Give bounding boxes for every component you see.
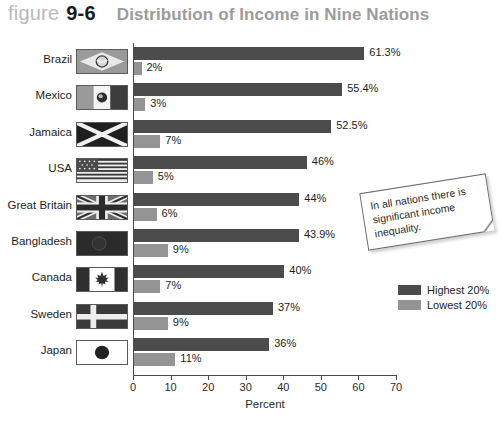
bar-value-mexico-highest20: 55.4% (347, 82, 378, 94)
x-axis-tick-0 (133, 376, 134, 380)
bar-bangladesh-lowest20 (134, 244, 168, 257)
bar-usa-highest20 (134, 156, 307, 169)
legend-item: Lowest 20% (398, 298, 498, 311)
x-axis-tick-60 (358, 376, 359, 380)
flag-usa-icon (76, 158, 128, 183)
x-axis-tick-50 (321, 376, 322, 380)
chart-row: Mexico55.4%3% (0, 83, 501, 119)
bar-bangladesh-highest20 (134, 229, 299, 242)
figure-header: figure 9-6 Distribution of Income in Nin… (8, 2, 498, 30)
bar-value-bangladesh-lowest20: 9% (173, 243, 189, 255)
chart-row: Jamaica52.5%7% (0, 120, 501, 156)
x-axis-tick-label-60: 60 (352, 381, 364, 393)
x-axis-tick-label-0: 0 (130, 381, 136, 393)
bar-great-britain-lowest20 (134, 208, 157, 221)
bar-mexico-highest20 (134, 83, 342, 96)
flag-japan-icon (76, 340, 128, 365)
bar-mexico-lowest20 (134, 98, 145, 111)
bar-canada-highest20 (134, 265, 284, 278)
bar-great-britain-highest20 (134, 193, 299, 206)
x-axis-tick-label-40: 40 (277, 381, 289, 393)
country-label-mexico: Mexico (0, 89, 72, 101)
flag-bangladesh-icon (76, 231, 128, 256)
bar-value-mexico-lowest20: 3% (150, 97, 166, 109)
bar-value-japan-lowest20: 11% (180, 352, 201, 364)
flag-mexico-icon (76, 85, 128, 110)
country-label-usa: USA (0, 162, 72, 174)
country-label-jamaica: Jamaica (0, 126, 72, 138)
flag-great-britain-icon (76, 195, 128, 220)
legend-label: Lowest 20% (427, 299, 487, 311)
x-axis-tick-30 (246, 376, 247, 380)
country-label-bangladesh: Bangladesh (0, 235, 72, 247)
country-label-canada: Canada (0, 271, 72, 283)
bar-value-great-britain-highest20: 44% (304, 192, 326, 204)
x-axis-tick-70 (396, 376, 397, 380)
bar-value-canada-highest20: 40% (289, 264, 311, 276)
bar-brazil-highest20 (134, 47, 364, 60)
chart-legend: Highest 20%Lowest 20% (398, 283, 498, 313)
chart-title: Distribution of Income in Nine Nations (117, 5, 430, 25)
flag-jamaica-icon (76, 122, 128, 147)
chart-row: Brazil61.3%2% (0, 47, 501, 83)
country-label-brazil: Brazil (0, 53, 72, 65)
bar-canada-lowest20 (134, 280, 160, 293)
bar-jamaica-highest20 (134, 120, 331, 133)
bar-sweden-lowest20 (134, 317, 168, 330)
x-axis-tick-label-50: 50 (315, 381, 327, 393)
x-axis-tick-label-10: 10 (164, 381, 176, 393)
x-axis-tick-label-70: 70 (390, 381, 402, 393)
bar-value-canada-lowest20: 7% (165, 279, 181, 291)
bar-value-usa-lowest20: 5% (158, 170, 174, 182)
bar-value-jamaica-lowest20: 7% (165, 134, 181, 146)
bar-japan-highest20 (134, 338, 269, 351)
country-label-japan: Japan (0, 344, 72, 356)
bar-value-japan-highest20: 36% (274, 337, 296, 349)
note-fold-corner (483, 221, 494, 232)
country-label-great-britain: Great Britain (0, 199, 72, 211)
country-label-sweden: Sweden (0, 308, 72, 320)
bar-japan-lowest20 (134, 353, 175, 366)
bar-jamaica-lowest20 (134, 135, 160, 148)
bar-value-usa-highest20: 46% (312, 155, 334, 167)
bar-sweden-highest20 (134, 302, 273, 315)
bar-usa-lowest20 (134, 171, 153, 184)
legend-item: Highest 20% (398, 283, 498, 296)
bar-value-brazil-highest20: 61.3% (369, 46, 400, 58)
x-axis-tick-label-20: 20 (202, 381, 214, 393)
annotation-note-text: In all nations there is significant inco… (369, 181, 486, 240)
bar-value-sweden-highest20: 37% (278, 301, 300, 313)
bar-value-bangladesh-highest20: 43.9% (304, 228, 335, 240)
flag-brazil-icon (76, 49, 128, 74)
flag-sweden-icon (76, 304, 128, 329)
bar-value-jamaica-highest20: 52.5% (336, 119, 367, 131)
bar-brazil-lowest20 (134, 62, 142, 75)
figure-number: 9-6 (66, 2, 96, 25)
bar-value-sweden-lowest20: 9% (173, 316, 189, 328)
x-axis-tick-10 (171, 376, 172, 380)
x-axis-line (133, 375, 397, 376)
legend-label: Highest 20% (427, 284, 489, 296)
x-axis-title: Percent (133, 398, 397, 410)
x-axis-tick-label-30: 30 (240, 381, 252, 393)
bar-value-great-britain-lowest20: 6% (162, 207, 178, 219)
legend-swatch-lowest (398, 300, 421, 310)
figure-word: figure (8, 2, 59, 25)
legend-swatch-highest (398, 285, 421, 295)
bar-value-brazil-lowest20: 2% (147, 61, 163, 73)
x-axis-tick-40 (283, 376, 284, 380)
flag-canada-icon (76, 267, 128, 292)
chart-row: Japan36%11% (0, 338, 501, 374)
x-axis-tick-20 (208, 376, 209, 380)
